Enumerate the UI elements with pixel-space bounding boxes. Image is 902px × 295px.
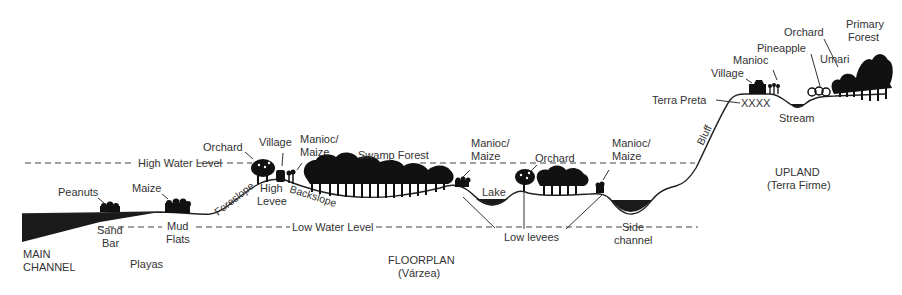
manioc-maize-1-label-line1: Manioc/ (300, 133, 339, 145)
levee-village-label: Village (259, 136, 292, 148)
pineapple-orchard-icon (808, 87, 830, 96)
floodplain-cross-section-diagram: High Water Level Low Water Level (0, 0, 902, 295)
upland-label: UPLAND (775, 166, 820, 178)
low-levee-forest-icon (537, 166, 589, 196)
upland-village-label: Village (711, 67, 744, 79)
side-channel-label-line2: channel (614, 234, 653, 246)
side-channel-label-line1: Side (622, 221, 644, 233)
primary-forest-label-line2: Forest (848, 31, 879, 43)
maize-label: Maize (132, 182, 161, 194)
low-levee-orchard-icon (515, 169, 535, 191)
ground-profile-line (22, 94, 885, 214)
lake-label: Lake (482, 186, 506, 198)
low-water-level-label: Low Water Level (292, 221, 374, 233)
low-levee-manioc-maize-icon-2 (596, 182, 605, 194)
levee-village-icon (276, 170, 285, 182)
floorplan-subtitle: (Várzea) (398, 267, 440, 279)
stream-label: Stream (779, 112, 814, 124)
upland-orchard-label: Orchard (784, 26, 824, 38)
sand-bar-label-line1: Sand (97, 224, 123, 236)
umari-label: Umari (820, 53, 849, 65)
terra-preta-label: Terra Preta (652, 94, 707, 106)
mud-flats-label-line2: Flats (166, 233, 190, 245)
low-levees-label: Low levees (504, 231, 560, 243)
low-levee-manioc-maize-icon-1 (455, 177, 471, 188)
terra-preta-marks: XXXX (741, 97, 771, 109)
foreslope-label: Foreslope (212, 179, 256, 217)
playas-label: Playas (130, 258, 164, 270)
manioc-maize-1-label-line2: Maize (300, 146, 329, 158)
main-channel-label-line2: CHANNEL (23, 261, 76, 273)
manioc-maize-2-label-line2: Maize (471, 150, 500, 162)
peanuts-label: Peanuts (58, 186, 99, 198)
mud-flats-label-line1: Mud (167, 220, 188, 232)
primary-forest-label-line1: Primary (846, 18, 884, 30)
sand-bar-label-line2: Bar (102, 237, 119, 249)
peanuts-crop-icon (100, 202, 120, 213)
upland-subtitle: (Terra Firme) (767, 179, 831, 191)
high-levee-label-line2: Levee (257, 195, 287, 207)
upland-manioc-icon (768, 83, 780, 94)
high-water-level-label: High Water Level (138, 157, 222, 169)
upland-manioc-label: Manioc (733, 54, 769, 66)
pineapple-label: Pineapple (757, 42, 806, 54)
maize-crop-icon (165, 199, 191, 214)
manioc-maize-2-label-line1: Manioc/ (471, 137, 510, 149)
main-channel-label-line1: MAIN (23, 248, 51, 260)
side-channel-water (611, 200, 652, 212)
swamp-forest-label: Swamp Forest (358, 149, 429, 161)
low-orchard-label: Orchard (535, 152, 575, 164)
manioc-maize-3-label-line1: Manioc/ (612, 137, 651, 149)
high-levee-label-line1: High (260, 182, 283, 194)
manioc-maize-3-label-line2: Maize (612, 150, 641, 162)
levee-orchard-label: Orchard (203, 141, 243, 153)
floorplan-label: FLOORPLAN (388, 254, 455, 266)
